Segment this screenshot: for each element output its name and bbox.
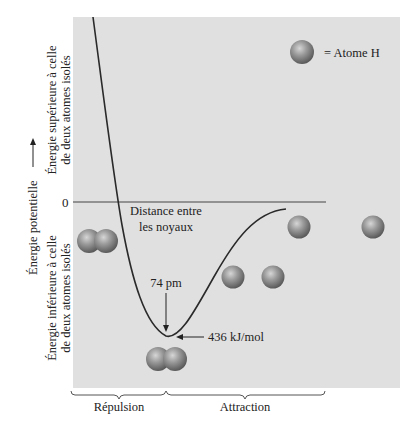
atom-icon — [222, 266, 245, 289]
upper-region-line1: Énergie supérieure à celle — [45, 45, 59, 175]
molecule-compressed — [77, 229, 118, 253]
atom-icon — [362, 216, 385, 239]
zero-label: 0 — [62, 195, 69, 210]
upper-region-label: Énergie supérieure à celle de deux atome… — [45, 45, 73, 175]
lower-region-line2: de deux atomes isolés — [59, 243, 73, 352]
repulsion-label: Répulsion — [94, 400, 145, 414]
distance-label-line2: les noyaux — [139, 220, 194, 234]
atom-icon — [94, 229, 118, 253]
legend-atom-icon — [290, 40, 314, 64]
bond-length-label: 74 pm — [150, 276, 182, 290]
distance-label-line1: Distance entre — [130, 204, 202, 218]
atom-icon — [163, 347, 187, 371]
upper-region-line2: de deux atomes isolés — [59, 55, 73, 164]
atom-icon — [262, 266, 285, 289]
attraction-label: Attraction — [220, 400, 271, 414]
lower-region-label: Énergie inférieure à celle de deux atome… — [45, 235, 73, 361]
repulsion-brace — [71, 391, 166, 399]
molecule-bonded — [146, 347, 187, 371]
bond-energy-label: 436 kJ/mol — [208, 330, 264, 344]
lower-region-line1: Énergie inférieure à celle — [45, 235, 59, 361]
y-axis-arrow-icon — [30, 138, 36, 145]
potential-energy-diagram: 0 Énergie potentielle Énergie supérieure… — [0, 0, 420, 429]
atom-icon — [288, 216, 311, 239]
legend-label: = Atome H — [324, 46, 380, 60]
y-axis-label: Énergie potentielle — [26, 138, 40, 275]
y-axis-label-text: Énergie potentielle — [26, 180, 40, 275]
attraction-brace — [166, 391, 325, 399]
